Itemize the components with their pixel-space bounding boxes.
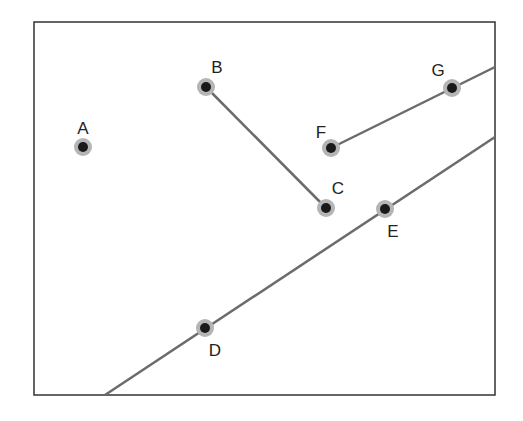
point-label-f: F <box>316 123 326 142</box>
point-dot <box>380 204 390 214</box>
point-d <box>196 319 214 337</box>
point-e <box>376 200 394 218</box>
point-dot <box>201 82 211 92</box>
point-dot <box>321 203 331 213</box>
point-b <box>197 78 215 96</box>
point-dot <box>200 323 210 333</box>
point-c <box>317 199 335 217</box>
point-a <box>74 138 92 156</box>
point-label-g: G <box>431 61 444 80</box>
point-dot <box>326 143 336 153</box>
point-dot <box>78 142 88 152</box>
point-g <box>443 79 461 97</box>
point-dot <box>447 83 457 93</box>
point-label-c: C <box>332 179 344 198</box>
geometry-diagram: ABCDEFG <box>0 0 523 421</box>
point-label-b: B <box>211 58 222 77</box>
point-label-d: D <box>209 341 221 360</box>
diagram-frame <box>34 22 495 395</box>
point-label-a: A <box>77 119 89 138</box>
point-label-e: E <box>387 222 398 241</box>
